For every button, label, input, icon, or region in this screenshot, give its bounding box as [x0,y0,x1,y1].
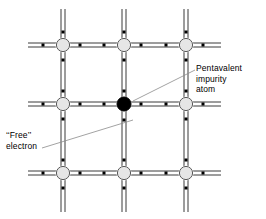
atom-r1-c2 [179,97,192,110]
free-electron-marker [123,119,126,122]
atom-r0-c0 [56,38,69,51]
pentavalent-impurity-label: Pentavalent impurity atom [196,63,242,95]
atom-r0-c1 [117,38,130,51]
atom-r2-c2 [179,166,192,179]
atom-r0-c2 [179,38,192,51]
crystal-lattice-diagram: Pentavalent impurity atom ‘‘Free’’ elect… [0,0,266,219]
atom-r2-c1 [117,166,130,179]
leader-free-electron [42,120,133,148]
lattice-canvas [0,0,266,219]
atom-r1-c0 [56,97,69,110]
free-electron-label: ‘‘Free’’ electron [6,130,37,151]
pentavalent-impurity-atom [117,97,131,111]
atom-r2-c0 [56,166,69,179]
leader-pentavalent [133,70,195,101]
